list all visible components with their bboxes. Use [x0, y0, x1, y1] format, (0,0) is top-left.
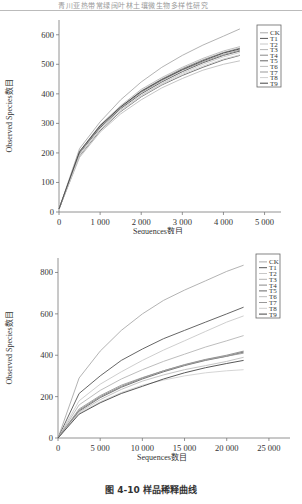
series-line-t3	[58, 336, 244, 438]
series-line-t8	[58, 370, 244, 438]
x-tick-label: 20 000	[215, 443, 238, 453]
y-tick-label: 0	[50, 207, 54, 217]
y-tick-label: 800	[40, 267, 53, 277]
page-header: 青川亚热带常绿阔叶林土壤微生物多样性研究	[0, 0, 302, 12]
series-line-t6	[59, 61, 240, 209]
series-line-t8	[59, 55, 240, 209]
y-tick-label: 600	[41, 30, 54, 40]
series-line-ck	[58, 265, 244, 438]
x-tick-label: 15 000	[173, 443, 196, 453]
figure-caption: 图 4-10 样品稀释曲线	[0, 483, 302, 496]
y-tick-label: 200	[41, 148, 54, 158]
legend-label: T9	[269, 311, 277, 319]
rarefaction-chart-bottom: 020040060080005 00010 00015 00020 00025 …	[0, 250, 302, 478]
series-line-t5	[59, 55, 240, 209]
x-tick-label: 0	[57, 217, 61, 227]
y-tick-label: 400	[40, 350, 53, 360]
y-tick-label: 500	[41, 59, 54, 69]
y-tick-label: 100	[41, 177, 54, 187]
x-tick-label: 10 000	[131, 443, 154, 453]
x-axis-label: Sequences数目	[133, 226, 183, 234]
x-tick-label: 2 000	[132, 217, 151, 227]
y-tick-label: 400	[41, 89, 54, 99]
x-tick-label: 1 000	[91, 217, 110, 227]
y-axis-label: Observed Species数目	[4, 79, 14, 152]
y-tick-label: 600	[40, 309, 53, 319]
y-tick-label: 300	[41, 118, 54, 128]
y-tick-label: 0	[49, 433, 53, 443]
x-tick-label: 0	[56, 443, 60, 453]
series-line-t3	[59, 47, 240, 209]
x-tick-label: 3 000	[173, 217, 192, 227]
series-line-t2	[58, 316, 244, 438]
series-line-t4	[58, 351, 244, 438]
header-text: 青川亚热带常绿阔叶林土壤微生物多样性研究	[58, 0, 208, 10]
x-tick-label: 5 000	[255, 217, 274, 227]
legend-label: T9	[270, 80, 278, 88]
header-rule	[0, 10, 302, 11]
x-tick-label: 4 000	[214, 217, 233, 227]
y-axis-label: Observed Species数目	[4, 311, 14, 384]
x-axis-label: Sequences数目	[137, 452, 187, 462]
series-line-t1	[59, 51, 240, 209]
x-tick-label: 5 000	[91, 443, 110, 453]
y-tick-label: 200	[40, 392, 53, 402]
rarefaction-chart-top: 010020030040050060001 0002 0003 0004 000…	[0, 14, 302, 234]
series-line-t4	[59, 48, 240, 209]
x-tick-label: 25 000	[257, 443, 280, 453]
series-line-t7	[59, 50, 240, 209]
series-line-t9	[59, 49, 240, 209]
